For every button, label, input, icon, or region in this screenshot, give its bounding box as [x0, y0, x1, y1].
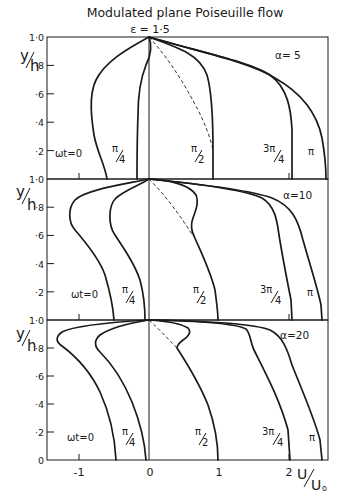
- svg-text:4: 4: [119, 154, 125, 165]
- label-wt0: ωt=0: [55, 148, 82, 159]
- ytick-0.2: ·2: [35, 146, 44, 157]
- curve-3pi4: [149, 179, 292, 320]
- svg-text:h: h: [27, 337, 37, 355]
- label-3pi4: 3π 4: [262, 426, 283, 448]
- x-axis-label: U U o: [297, 466, 327, 493]
- label-pi: π: [309, 432, 315, 443]
- ytick-0.6: ·6: [35, 230, 44, 241]
- label-pi: π: [308, 146, 314, 157]
- label-3pi4: 3π 4: [260, 284, 281, 306]
- svg-text:4: 4: [129, 295, 135, 306]
- svg-text:y: y: [20, 47, 29, 65]
- ytick-0.6: ·6: [35, 371, 44, 382]
- panel-alpha-10: 1·0 ·8 ·6 ·4 ·2 y h α=10 ωt=0 π 4 π 2 3π: [16, 174, 328, 320]
- ytick-1.0: 1·0: [29, 174, 44, 185]
- xtick-0: 0: [147, 466, 154, 479]
- label-pi4: π 4: [122, 284, 135, 306]
- curve-pi: [149, 320, 322, 460]
- curve-envelope-dashed: [149, 37, 213, 150]
- svg-text:4: 4: [275, 295, 281, 306]
- panel-alpha-20: 1·0 ·8 ·6 ·4 ·2 0 y h α=20 ωt=0 π 4 π 2 …: [16, 315, 328, 466]
- y-axis-label: y h: [16, 183, 37, 214]
- x-axis: -1 0 1 2 U U o: [74, 466, 327, 493]
- ytick-0.4: ·4: [35, 259, 44, 270]
- curve-pi2: [149, 179, 218, 320]
- alpha-label: α= 5: [275, 49, 301, 61]
- curve-3pi4: [149, 37, 292, 179]
- svg-text:h: h: [27, 196, 37, 214]
- label-pi2: π 2: [195, 426, 208, 448]
- panel-alpha-5: 1·0 ·8 ·6 ·4 ·2 y h α= 5 ωt=0 π 4 π 2: [20, 32, 328, 179]
- ytick-0.6: ·6: [35, 89, 44, 100]
- y-ticks: [47, 207, 289, 320]
- alpha-label: α=20: [280, 329, 309, 341]
- svg-text:π: π: [193, 284, 199, 295]
- svg-text:π: π: [191, 143, 197, 154]
- label-wt0: ωt=0: [67, 432, 94, 443]
- ytick-0.2: ·2: [35, 287, 44, 298]
- svg-text:π: π: [195, 426, 201, 437]
- svg-text:h: h: [30, 57, 40, 75]
- label-pi4: π 4: [122, 426, 135, 448]
- curve-pi4: [96, 320, 150, 460]
- y-axis-label: y h: [20, 47, 40, 75]
- label-pi: π: [307, 287, 313, 298]
- curve-envelope-dashed: [149, 320, 177, 348]
- y-ticks: [47, 65, 289, 179]
- ytick-0: 0: [38, 455, 44, 466]
- label-3pi4: 3π 4: [263, 143, 284, 165]
- ytick-0.4: ·4: [35, 117, 44, 128]
- chart-title: Modulated plane Poiseuille flow: [87, 5, 284, 20]
- svg-text:4: 4: [278, 154, 284, 165]
- ytick-0.4: ·4: [35, 399, 44, 410]
- svg-text:3π: 3π: [262, 426, 274, 437]
- svg-text:π: π: [122, 284, 128, 295]
- svg-text:π: π: [112, 143, 118, 154]
- ytick-0.2: ·2: [35, 427, 44, 438]
- svg-text:4: 4: [129, 437, 135, 448]
- svg-text:2: 2: [198, 154, 204, 165]
- svg-text:3π: 3π: [260, 284, 272, 295]
- label-pi2: π 2: [191, 143, 204, 165]
- svg-text:2: 2: [200, 295, 206, 306]
- label-pi4: π 4: [112, 143, 125, 165]
- ytick-1.0: 1·0: [29, 315, 44, 326]
- y-axis-label: y h: [16, 325, 37, 355]
- svg-text:2: 2: [202, 437, 208, 448]
- svg-text:4: 4: [277, 437, 283, 448]
- svg-text:U: U: [311, 477, 321, 493]
- svg-text:π: π: [122, 426, 128, 437]
- alpha-label: α=10: [283, 189, 312, 201]
- svg-text:3π: 3π: [263, 143, 275, 154]
- svg-text:y: y: [16, 325, 25, 343]
- epsilon-label: ε = 1·5: [130, 23, 170, 36]
- xtick-minus1: -1: [74, 466, 85, 479]
- figure: Modulated plane Poiseuille flow ε = 1·5 …: [0, 0, 344, 496]
- curve-3pi4: [149, 320, 290, 460]
- svg-text:o: o: [322, 484, 327, 493]
- xtick-1: 1: [216, 466, 223, 479]
- label-wt0: ωt=0: [71, 289, 98, 300]
- xtick-2: 2: [286, 466, 293, 479]
- svg-text:y: y: [16, 183, 25, 201]
- label-pi2: π 2: [193, 284, 206, 306]
- ytick-1.0: 1·0: [29, 32, 44, 43]
- svg-text:U: U: [297, 466, 307, 482]
